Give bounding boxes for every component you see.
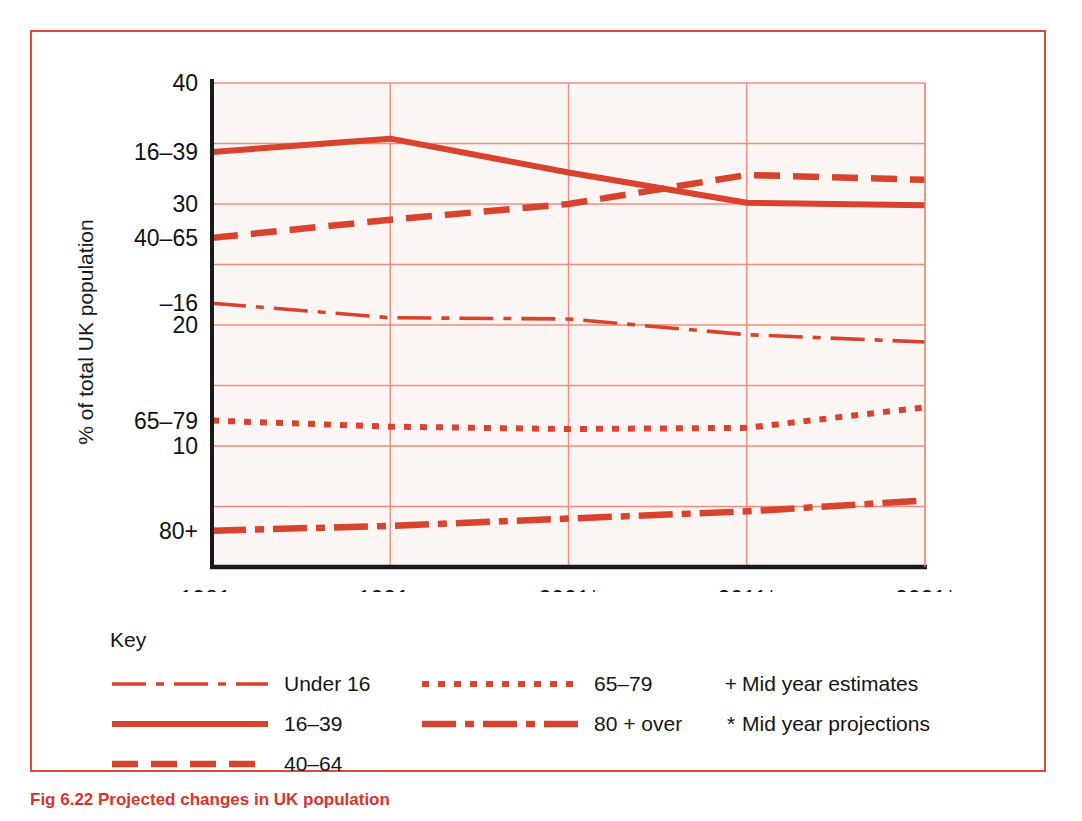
legend-label-16-39: 16–39 [284, 712, 342, 736]
legend-item-under-16: Under 16 [110, 672, 420, 696]
legend-item-80-over: 80 + over [420, 712, 720, 736]
legend-row-2: 16–39 80 + over * Mid year projections [110, 704, 1030, 744]
legend-item-16-39: 16–39 [110, 712, 420, 736]
x-tick-label: 1991+ [358, 586, 423, 592]
x-tick-label: 1981+ [180, 586, 245, 592]
footnote-text-projections: Mid year projections [742, 712, 930, 736]
y-series-label: 80+ [159, 518, 198, 544]
chart-legend: Key Under 16 65–79 + Mid year estimates [110, 628, 1030, 784]
y-tick-label: 40 [172, 70, 198, 96]
legend-swatch-16-39 [110, 713, 270, 735]
footnote-symbol-asterisk: * [720, 712, 742, 736]
x-tick-label: 2011* [718, 586, 776, 592]
legend-swatch-80-over [420, 713, 580, 735]
x-tick-label: 2021* [895, 586, 955, 592]
legend-swatch-under-16 [110, 673, 270, 695]
figure-frame: 40302010–1616–3940–6565–7980+1981+1991+2… [30, 30, 1046, 772]
legend-row-1: Under 16 65–79 + Mid year estimates [110, 664, 1030, 704]
footnote-projections: * Mid year projections [720, 712, 930, 736]
y-series-label: 16–39 [134, 139, 198, 165]
footnote-symbol-plus: + [720, 672, 742, 696]
legend-item-40-64: 40–64 [110, 752, 420, 776]
figure-caption: Fig 6.22 Projected changes in UK populat… [30, 790, 1050, 816]
line-chart: 40302010–1616–3940–6565–7980+1981+1991+2… [32, 32, 1048, 592]
legend-item-65-79: 65–79 [420, 672, 720, 696]
y-series-label: –16 [160, 290, 198, 316]
legend-label-65-79: 65–79 [594, 672, 652, 696]
y-series-label: 40–65 [134, 225, 198, 251]
figure-page: 40302010–1616–3940–6565–7980+1981+1991+2… [0, 0, 1082, 821]
y-series-label: 65–79 [134, 408, 198, 434]
footnote-estimates: + Mid year estimates [720, 672, 918, 696]
y-axis-title: % of total UK population [74, 219, 98, 444]
legend-label-under-16: Under 16 [284, 672, 370, 696]
legend-label-80-over: 80 + over [594, 712, 682, 736]
chart-area: 40302010–1616–3940–6565–7980+1981+1991+2… [32, 32, 1048, 592]
legend-row-3: 40–64 [110, 744, 1030, 784]
legend-label-40-64: 40–64 [284, 752, 342, 776]
legend-swatch-65-79 [420, 673, 580, 695]
y-tick-label: 10 [172, 433, 198, 459]
y-tick-label: 30 [172, 191, 198, 217]
x-tick-label: 2001* [538, 586, 598, 592]
legend-title: Key [110, 628, 1030, 652]
legend-swatch-40-64 [110, 753, 270, 775]
footnote-text-estimates: Mid year estimates [742, 672, 918, 696]
